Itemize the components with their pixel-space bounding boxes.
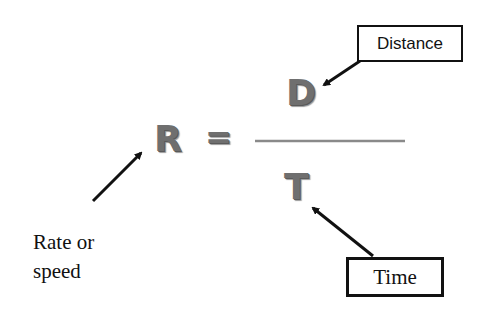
rate-distance-time-diagram: R = D T Distance Time Rate or speed [0, 0, 501, 318]
time-symbol: T [284, 169, 309, 205]
time-label-box: Time [346, 257, 444, 297]
distance-symbol: D [286, 75, 316, 111]
arrow-to-time [313, 208, 373, 256]
rate-label: Rate or speed [33, 228, 94, 286]
rate-label-line2: speed [33, 257, 94, 286]
distance-label: Distance [377, 34, 443, 54]
time-label: Time [373, 265, 417, 290]
equals-sign: = [205, 121, 232, 153]
arrow-to-rate [93, 153, 141, 201]
rate-label-line1: Rate or [33, 228, 94, 257]
rate-symbol: R [154, 121, 182, 157]
distance-label-box: Distance [357, 25, 463, 62]
arrow-to-distance [324, 61, 360, 85]
